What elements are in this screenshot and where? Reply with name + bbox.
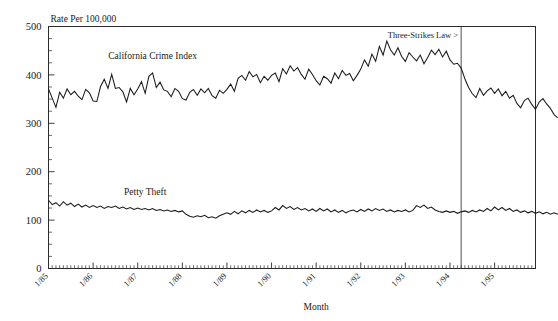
- three-strikes-annotation-label: Three-Strikes Law >: [388, 30, 459, 40]
- x-axis-tick-label: 1/91: [300, 271, 318, 289]
- x-axis-tick-label: 1/86: [77, 271, 95, 289]
- plot-frame: [49, 27, 536, 269]
- series-label-california-crime-index: California Crime Index: [108, 51, 197, 61]
- crime-index-line-chart: Rate Per 100,00001002003004005001/851/86…: [0, 0, 558, 321]
- chart-container: Rate Per 100,00001002003004005001/851/86…: [0, 0, 558, 321]
- x-axis-tick-label: 1/93: [389, 271, 407, 289]
- y-axis-tick-label: 100: [26, 215, 42, 226]
- x-axis-tick-label: 1/95: [478, 271, 496, 289]
- x-axis-tick-label: 1/92: [344, 271, 362, 289]
- x-axis-tick-label: 1/94: [434, 270, 452, 288]
- x-axis-tick-label: 1/89: [211, 271, 229, 289]
- y-axis-tick-label: 200: [26, 166, 42, 177]
- y-axis-tick-label: 300: [26, 118, 42, 129]
- x-axis-title: Month: [303, 302, 329, 312]
- y-axis-title: Rate Per 100,000: [51, 14, 117, 24]
- series-line-petty-theft: [49, 200, 558, 218]
- x-axis-tick-label: 1/88: [166, 271, 184, 289]
- y-axis-tick-label: 500: [26, 21, 42, 32]
- x-axis-tick-label: 1/87: [121, 271, 139, 289]
- series-label-petty-theft: Petty Theft: [124, 187, 167, 197]
- x-axis-tick-label: 1/90: [255, 271, 273, 289]
- x-axis-tick-label: 1/85: [32, 271, 50, 289]
- y-axis-tick-label: 400: [26, 70, 42, 81]
